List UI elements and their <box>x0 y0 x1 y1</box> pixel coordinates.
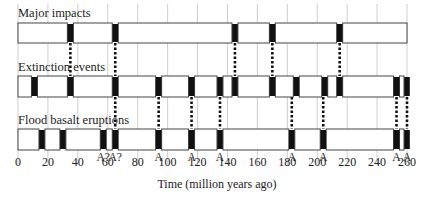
event-marker <box>404 77 410 96</box>
row-label-extinction-events: Extinction events <box>18 60 105 74</box>
event-marker <box>156 130 162 149</box>
x-tick-label: 260 <box>398 155 416 169</box>
timeline-segment <box>37 76 67 97</box>
timeline-segment <box>275 76 293 97</box>
event-marker <box>112 77 118 96</box>
timeline-segment <box>343 76 394 97</box>
timeline-segment <box>295 129 320 150</box>
x-tick-label: 0 <box>15 155 21 169</box>
timeline-segment <box>162 129 189 150</box>
timeline-row <box>18 76 410 97</box>
x-tick-label: 180 <box>278 155 296 169</box>
timeline-segment <box>328 76 337 97</box>
x-axis-title: Time (million years ago) <box>157 177 276 191</box>
timeline-segment <box>118 129 155 150</box>
x-tick-label: 80 <box>132 155 144 169</box>
row-label-flood-basalt: Flood basalt eruptions <box>18 113 129 127</box>
timeline-row <box>18 23 407 43</box>
event-marker <box>100 130 106 149</box>
timeline-segment <box>195 76 217 97</box>
event-marker <box>337 24 343 42</box>
x-tick-label: 100 <box>159 155 177 169</box>
timeline-segment <box>343 23 407 43</box>
timeline-segment <box>45 129 60 150</box>
timeline-segment <box>400 129 404 150</box>
timeline-segment <box>73 23 112 43</box>
timeline-segment <box>18 23 67 43</box>
timeline-segment <box>275 23 336 43</box>
event-marker <box>68 77 74 96</box>
event-marker <box>112 24 118 42</box>
event-marker <box>112 130 118 149</box>
timeline-rows <box>18 23 410 150</box>
timeline-segment <box>400 76 404 97</box>
event-marker <box>232 77 238 96</box>
event-marker <box>60 130 66 149</box>
timeline-segment <box>66 129 100 150</box>
event-marker <box>322 77 328 96</box>
timeline-segment <box>299 76 321 97</box>
x-tick-label: 60 <box>102 155 114 169</box>
event-marker <box>394 77 400 96</box>
event-marker <box>156 77 162 96</box>
x-tick-label: 140 <box>218 155 236 169</box>
x-tick-label: 220 <box>338 155 356 169</box>
event-marker <box>189 130 195 149</box>
event-marker <box>337 77 343 96</box>
event-marker <box>320 130 326 149</box>
timeline-segment <box>162 76 189 97</box>
event-marker <box>217 130 223 149</box>
timeline-segment <box>118 23 232 43</box>
timeline-segment <box>326 129 393 150</box>
x-tick-label: 120 <box>189 155 207 169</box>
row-label-major-impacts: Major impacts <box>18 6 91 20</box>
timeline-segment <box>223 129 289 150</box>
event-marker <box>32 77 38 96</box>
timeline-segment <box>118 76 155 97</box>
event-marker <box>270 24 276 42</box>
x-tick-label: 240 <box>368 155 386 169</box>
timeline-row <box>18 129 410 150</box>
timeline-segment <box>18 76 31 97</box>
event-marker <box>394 130 400 149</box>
event-marker <box>189 77 195 96</box>
timeline-chart: A?A?AAAAAAA 0204060801001201401601802002… <box>0 0 434 197</box>
timeline-segment <box>195 129 217 150</box>
timeline-segment <box>106 129 112 150</box>
event-marker <box>289 130 295 149</box>
x-tick-label: 40 <box>72 155 84 169</box>
timeline-segment <box>238 76 269 97</box>
timeline-segment <box>223 76 232 97</box>
event-marker <box>270 77 276 96</box>
timeline-segment <box>18 129 39 150</box>
timeline-segment <box>238 23 269 43</box>
event-marker <box>217 77 223 96</box>
event-marker <box>404 130 410 149</box>
event-marker <box>39 130 45 149</box>
event-marker <box>293 77 299 96</box>
event-marker <box>232 24 238 42</box>
x-tick-label: 200 <box>308 155 326 169</box>
event-marker <box>68 24 74 42</box>
x-tick-label: 20 <box>42 155 54 169</box>
x-tick-label: 160 <box>248 155 266 169</box>
timeline-segment <box>73 76 112 97</box>
